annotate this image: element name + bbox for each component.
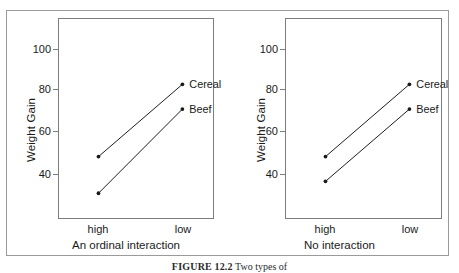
figure-caption-number: 12.2 — [214, 261, 232, 272]
figure-frame: Weight Gain 100 80 60 40 Cereal Beef hig… — [6, 10, 449, 256]
y-tick-label-80: 80 — [15, 83, 51, 95]
figure-caption-label: FIGURE — [172, 261, 212, 272]
data-point-beef-high — [324, 179, 328, 183]
panel-caption-no-interaction: No interaction — [229, 239, 450, 251]
y-tick-label-80: 80 — [242, 83, 278, 95]
figure-caption-text: Two types of — [235, 261, 287, 272]
series-label-beef: Beef — [416, 103, 439, 115]
plot-svg-ordinal: Cereal Beef — [59, 19, 213, 218]
panel-caption-ordinal: An ordinal interaction — [15, 239, 237, 251]
y-tick-label-100: 100 — [242, 43, 278, 55]
x-tick-label-high: high — [68, 223, 128, 235]
series-line-beef — [98, 109, 182, 193]
y-tick-label-40: 40 — [15, 168, 51, 180]
data-point-cereal-high — [324, 155, 328, 159]
series-label-cereal: Cereal — [416, 78, 448, 90]
y-tick-label-40: 40 — [242, 168, 278, 180]
figure-caption: FIGURE 12.2 Two types of — [0, 261, 459, 272]
x-tick-label-low: low — [153, 223, 213, 235]
series-label-cereal: Cereal — [189, 78, 221, 90]
data-point-cereal-low — [181, 82, 185, 86]
chart-panel-no-interaction: Weight Gain 100 80 60 40 Cereal Beef hig… — [229, 11, 450, 255]
chart-panel-ordinal-interaction: Weight Gain 100 80 60 40 Cereal Beef hig… — [7, 11, 229, 255]
y-tick-label-100: 100 — [15, 43, 51, 55]
plot-svg-no-interaction: Cereal Beef — [286, 19, 441, 218]
data-point-beef-high — [97, 191, 101, 195]
data-point-beef-low — [181, 107, 185, 111]
data-point-cereal-high — [97, 155, 101, 159]
y-tick-label-60: 60 — [242, 125, 278, 137]
series-label-beef: Beef — [189, 103, 212, 115]
plot-area: Cereal Beef — [285, 18, 442, 219]
y-tick-label-60: 60 — [15, 125, 51, 137]
data-point-beef-low — [408, 107, 412, 111]
data-point-cereal-low — [408, 82, 412, 86]
x-tick-label-high: high — [295, 223, 355, 235]
x-tick-label-low: low — [380, 223, 440, 235]
series-line-cereal — [98, 84, 182, 156]
plot-area: Cereal Beef — [58, 18, 214, 219]
